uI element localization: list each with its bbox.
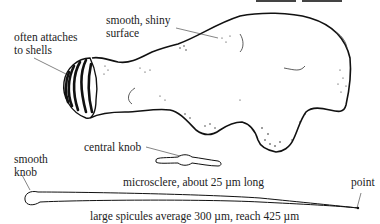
label-smooth-knob-line1: smooth — [14, 153, 48, 165]
label-attach-line2: to shells — [14, 44, 52, 56]
label-smooth-knob-line2: knob — [14, 166, 37, 178]
label-attach-line1: often attaches — [14, 31, 78, 43]
leader-surface — [176, 28, 218, 38]
stipple-shading — [103, 35, 346, 146]
label-microsclere: microsclere, about 25 µm long — [123, 176, 264, 188]
label-large-spicules: large spicules average 300 µm, reach 425… — [90, 210, 299, 222]
label-surface-line1: smooth, shiny — [106, 14, 171, 26]
leader-central-knob — [146, 147, 180, 156]
microsclere — [156, 155, 221, 166]
label-surface-line2: surface — [106, 27, 139, 39]
leader-point — [357, 193, 361, 208]
spicule-point-tip — [357, 207, 359, 209]
label-central-knob: central knob — [84, 141, 141, 153]
label-point: point — [351, 176, 375, 188]
surface-curves — [128, 32, 347, 104]
large-spicule — [25, 191, 358, 208]
leader-attach — [34, 58, 66, 74]
